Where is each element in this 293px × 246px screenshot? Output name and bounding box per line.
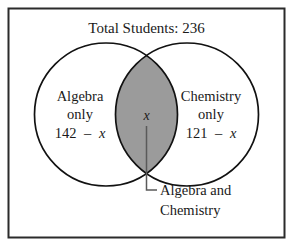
left-set-count: 142 <box>55 125 77 141</box>
intersection-callout-line2: Chemistry <box>160 202 221 218</box>
right-set-label-line2: only <box>198 106 225 122</box>
figure-title: Total Students: 236 <box>88 20 205 36</box>
left-set-label-line1: Algebra <box>57 88 104 104</box>
intersection-callout-line1: Algebra and <box>160 182 232 198</box>
intersection-variable-label: x <box>142 108 150 123</box>
right-set-minus: – <box>214 125 223 141</box>
venn-diagram-canvas: Total Students: 236 Algebra only 142 – x… <box>0 0 293 246</box>
right-set-variable: x <box>229 125 237 141</box>
left-set-label-line2: only <box>67 106 94 122</box>
left-set-variable: x <box>98 125 106 141</box>
right-set-count: 121 <box>186 125 208 141</box>
left-set-minus: – <box>83 125 92 141</box>
venn-diagram-figure: Total Students: 236 Algebra only 142 – x… <box>0 0 293 246</box>
right-set-label-line1: Chemistry <box>181 88 242 104</box>
